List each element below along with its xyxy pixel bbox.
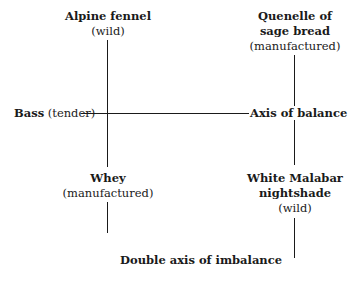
right-vertical-axis-middle: [294, 120, 295, 165]
node-qualifier: (tender): [48, 106, 95, 120]
node-name: Axis of balance: [250, 106, 347, 120]
node-qualifier: (wild): [57, 24, 159, 39]
node-quenelle-of-sage-bread: Quenelle of sage bread (manufactured): [244, 9, 346, 54]
node-name-line2: nightshade: [244, 186, 346, 201]
node-name-line2: sage bread: [244, 24, 346, 39]
left-vertical-axis-lower: [107, 202, 108, 233]
node-bass: Bass (tender): [14, 106, 95, 121]
left-vertical-axis-upper: [107, 40, 108, 167]
node-whey: Whey (manufactured): [57, 171, 159, 201]
horizontal-axis: [81, 113, 249, 114]
node-name: Whey: [57, 171, 159, 186]
node-name-line1: White Malabar: [244, 171, 346, 186]
node-name: Bass: [14, 106, 44, 120]
node-white-malabar-nightshade: White Malabar nightshade (wild): [244, 171, 346, 216]
node-axis-of-balance: Axis of balance: [250, 106, 347, 121]
node-qualifier: (manufactured): [244, 39, 346, 54]
node-name: Alpine fennel: [57, 9, 159, 24]
caption-double-axis-of-imbalance: Double axis of imbalance: [120, 253, 270, 268]
right-vertical-axis-lower: [294, 218, 295, 258]
node-alpine-fennel: Alpine fennel (wild): [57, 9, 159, 39]
node-qualifier: (wild): [244, 201, 346, 216]
node-qualifier: (manufactured): [57, 186, 159, 201]
node-name-line1: Quenelle of: [244, 9, 346, 24]
right-vertical-axis-upper: [294, 55, 295, 106]
